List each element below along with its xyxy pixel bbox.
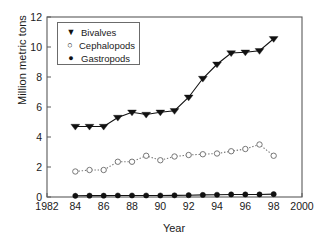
plot-area: [0, 0, 328, 244]
legend-item-label: Cephalopods: [79, 40, 135, 51]
legend-item-label: Bivalves: [81, 27, 116, 38]
legend-marker-icon: ●: [63, 54, 79, 63]
legend-item[interactable]: ○Cephalopods: [63, 39, 135, 51]
chart-legend: ▼Bivalves○Cephalopods●Gastropods: [57, 22, 140, 65]
legend-marker-icon: ▼: [63, 28, 79, 37]
legend-item[interactable]: ●Gastropods: [63, 52, 135, 64]
chart-container: Million metric tons 024681012 1982848688…: [0, 0, 328, 244]
legend-marker-icon: ○: [63, 41, 77, 50]
legend-item[interactable]: ▼Bivalves: [63, 26, 135, 38]
legend-item-label: Gastropods: [81, 53, 130, 64]
